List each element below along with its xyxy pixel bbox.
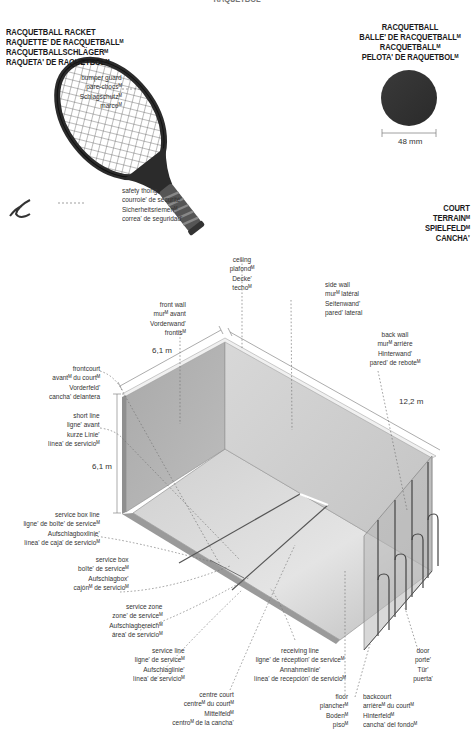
label-line: SPIELFELDᴹ: [425, 223, 470, 233]
racket-heading-fr: RAQUETTE' DE RACQUETBALLᴹ: [6, 37, 123, 47]
label-line: ligne' avant: [48, 420, 100, 429]
label-line: RACQUETBALLᴹ: [357, 42, 463, 52]
label-line: cajónᴹ de servicioᴹ: [74, 583, 129, 592]
label-line: frontisᴹ: [150, 328, 186, 337]
label-line: área' de servicioᴹ: [109, 630, 162, 639]
label-backcourt: backcourtarrièreᴹ du courtᴹ Hinterfeldᴹc…: [363, 692, 417, 730]
label-line: Hinterfeldᴹ: [363, 711, 417, 720]
label-back-wall: back wallmurᴹ arrière Hinterwand'pared' …: [364, 330, 426, 368]
label-line: pare-chocsᴹ: [80, 82, 122, 91]
label-line: front wall: [150, 300, 186, 309]
label-line: floor: [320, 692, 348, 701]
label-line: Schlagschutzᴹ: [80, 92, 122, 101]
label-line: short line: [48, 411, 100, 420]
label-line: plancherᴹ: [320, 701, 348, 710]
label-line: CANCHA': [425, 233, 470, 243]
label-line: Aufschlagbereichᴹ: [109, 621, 162, 630]
label-line: ligne' de boîte' de serviceᴹ: [24, 519, 100, 528]
label-line: ceiling: [224, 255, 259, 264]
label-line: bumper guard: [80, 73, 122, 82]
label-line: back wall: [364, 330, 426, 339]
label-line: techoᴹ: [224, 283, 259, 292]
label-line: línea' de servicioᴹ: [133, 674, 185, 683]
label-line: Bodenᴹ: [320, 711, 348, 720]
label-line: Aufschlagbox': [74, 574, 129, 583]
label-line: Mittelfeldᴹ: [173, 709, 234, 718]
label-ceiling: ceilingplafondᴹ Decke'techoᴹ: [224, 255, 259, 293]
label-line: cancha' delantera: [49, 392, 100, 401]
label-line: PELOTA' DE RAQUETBOLᴹ: [357, 52, 463, 62]
label-line: centroᴹ de la cancha': [173, 718, 234, 727]
label-centre-court: centre courtcentreᴹ du courtᴹ Mittelfeld…: [173, 690, 234, 728]
dim-height: 6,1 m: [92, 462, 112, 471]
label-service-zone: service zonezone' de serviceᴹ Aufschlagb…: [109, 602, 162, 640]
racquetball-ball-graphic: [381, 70, 437, 137]
label-line: Tür': [410, 665, 436, 674]
label-line: Decke': [224, 274, 259, 283]
label-line: ligne' de serviceᴹ: [133, 655, 185, 664]
label-service-line: service lineligne' de serviceᴹ Aufschlag…: [133, 646, 185, 684]
label-line: murᴹ arrière: [364, 339, 426, 348]
label-line: zone' de serviceᴹ: [109, 611, 162, 620]
label-line: side wall: [325, 280, 362, 289]
label-line: service box: [74, 555, 129, 564]
label-bumper-guard: bumper guard pare-chocsᴹ Schlagschutzᴹ m…: [80, 73, 122, 111]
label-line: correa' de seguridad': [122, 214, 182, 223]
label-line: backcourt: [363, 692, 417, 701]
label-service-box: service boxboîte' de serviceᴹ Aufschlagb…: [74, 555, 129, 593]
racket-heading: RACQUETBALL RACKET RAQUETTE' DE RACQUETB…: [6, 27, 123, 67]
label-line: porte': [410, 655, 436, 664]
label-line: kurze Linie': [48, 430, 100, 439]
label-short-line: short lineligne' avant kurze Linie'línea…: [48, 411, 100, 449]
label-line: TERRAINᴹ: [425, 213, 470, 223]
label-line: línea' de servicioᴹ: [48, 439, 100, 448]
label-line: Hinterwand': [364, 349, 426, 358]
racket-heading-es: RAQUETA' DE RAQUETBOLᴹ: [6, 57, 123, 67]
court-graphic: [122, 338, 438, 650]
label-line: murᴹ latéral: [325, 289, 362, 298]
label-line: boîte' de serviceᴹ: [74, 564, 129, 573]
label-line: COURT: [425, 203, 470, 213]
label-frontcourt: frontcourtavantᴹ du courtᴹ Vorderfeld'ca…: [49, 364, 100, 402]
label-line: Aufschlagboxlinie': [24, 529, 100, 538]
label-line: ligne' de réception' de serviceᴹ: [247, 655, 353, 664]
dim-front-width: 6,1 m: [152, 346, 172, 355]
racket-heading-de: RACQUETBALLSCHLÄGERᴹ: [6, 47, 123, 57]
label-line: plafondᴹ: [224, 264, 259, 273]
ball-diameter: 48 mm: [398, 137, 422, 146]
label-line: RACQUETBALL: [357, 22, 463, 32]
label-side-wall: side wallmurᴹ latéral Seitenwand'pared' …: [325, 280, 362, 318]
label-service-box-line: service box lineligne' de boîte' de serv…: [24, 510, 100, 548]
label-line: línea' de recepción' de servicioᴹ: [247, 674, 353, 683]
label-line: Vorderfeld': [49, 383, 100, 392]
dim-length: 12,2 m: [399, 397, 423, 406]
label-line: Aufschlaglinie': [133, 665, 185, 674]
label-line: door: [410, 646, 436, 655]
label-line: service box line: [24, 510, 100, 519]
label-line: pisoᴹ: [320, 720, 348, 729]
label-line: marcoᴹ: [80, 101, 122, 110]
label-line: pared' lateral: [325, 308, 362, 317]
label-line: safety thong: [122, 186, 182, 195]
label-line: arrièreᴹ du courtᴹ: [363, 701, 417, 710]
label-line: cancha' del fondoᴹ: [363, 720, 417, 729]
label-line: Annahmelinie': [247, 665, 353, 674]
label-safety-thong: safety thong courroie' de sécurité' Sich…: [122, 186, 182, 224]
label-line: service zone: [109, 602, 162, 611]
label-line: Sicherheitsriemenᴹ: [122, 205, 182, 214]
label-line: pared' de reboteᴹ: [364, 358, 426, 367]
label-line: centre court: [173, 690, 234, 699]
court-heading: COURT TERRAINᴹ SPIELFELDᴹ CANCHA': [425, 203, 470, 243]
label-floor: floorplancherᴹ Bodenᴹpisoᴹ: [320, 692, 348, 730]
racket-heading-en: RACQUETBALL RACKET: [6, 27, 123, 37]
label-receiving-line: receiving lineligne' de réception' de se…: [247, 646, 353, 684]
label-line: courroie' de sécurité': [122, 195, 182, 204]
label-line: murᴹ avant: [150, 309, 186, 318]
label-front-wall: front wallmurᴹ avant Vorderwand'frontisᴹ: [150, 300, 186, 338]
ball-heading: RACQUETBALL BALLE' DE RACQUETBALLᴹ RACQU…: [357, 22, 463, 62]
label-line: avantᴹ du courtᴹ: [49, 373, 100, 382]
label-line: service line: [133, 646, 185, 655]
label-line: puerta': [410, 674, 436, 683]
label-line: Seitenwand': [325, 299, 362, 308]
label-line: frontcourt: [49, 364, 100, 373]
